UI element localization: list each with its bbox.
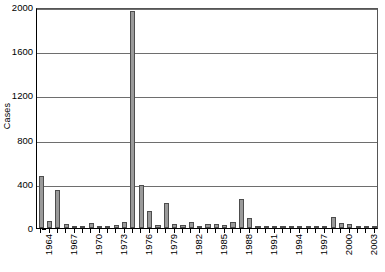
x-tick-label: 1964 xyxy=(44,234,54,255)
x-tick-mark xyxy=(65,229,66,233)
bar xyxy=(230,222,235,228)
bar xyxy=(114,225,119,228)
bar xyxy=(214,224,219,228)
bar xyxy=(331,217,336,228)
x-tick-mark xyxy=(115,229,116,233)
x-tick-mark xyxy=(224,229,225,233)
x-tick-label: 2000 xyxy=(344,234,354,255)
bar xyxy=(130,11,135,228)
x-tick-mark xyxy=(282,229,283,233)
x-tick-label: 1970 xyxy=(94,234,104,255)
bar xyxy=(222,225,227,228)
bar xyxy=(172,224,177,228)
x-tick-mark xyxy=(49,229,50,233)
bar-chart-figure: Cases 0400800120016002000 19641967197019… xyxy=(0,0,385,272)
x-tick-mark xyxy=(365,229,366,233)
bar xyxy=(239,199,244,228)
x-tick-mark xyxy=(107,229,108,233)
bar xyxy=(80,226,85,228)
bar xyxy=(372,226,377,228)
x-tick-mark xyxy=(324,229,325,233)
x-tick-mark xyxy=(74,229,75,233)
x-tick-mark xyxy=(82,229,83,233)
bar xyxy=(205,224,210,228)
x-tick-mark xyxy=(165,229,166,233)
bar xyxy=(289,226,294,228)
x-tick-label: 1988 xyxy=(244,234,254,255)
x-tick-mark xyxy=(40,229,41,233)
y-axis-tick-labels: 0400800120016002000 xyxy=(10,0,36,232)
x-tick-mark xyxy=(215,229,216,233)
x-tick-mark xyxy=(174,229,175,233)
bar xyxy=(47,221,52,228)
x-tick-mark xyxy=(374,229,375,233)
bar xyxy=(297,226,302,228)
bar xyxy=(247,218,252,228)
bar xyxy=(306,226,311,228)
bar xyxy=(280,226,285,228)
x-tick-mark xyxy=(249,229,250,233)
x-tick-label: 1967 xyxy=(69,234,79,255)
x-tick-label: 1997 xyxy=(319,234,329,255)
x-tick-mark xyxy=(349,229,350,233)
x-tick-mark xyxy=(240,229,241,233)
y-tick-label: 800 xyxy=(17,136,33,146)
x-tick-mark xyxy=(340,229,341,233)
x-tick-mark xyxy=(274,229,275,233)
x-tick-mark xyxy=(307,229,308,233)
bar xyxy=(264,226,269,228)
bar xyxy=(89,223,94,228)
bar xyxy=(155,225,160,228)
x-tick-mark xyxy=(332,229,333,233)
x-tick-mark xyxy=(182,229,183,233)
x-axis-tick-labels: 1964196719701973197619791982198519881991… xyxy=(36,234,378,272)
plot-area xyxy=(36,8,378,229)
x-tick-mark xyxy=(257,229,258,233)
bar xyxy=(180,225,185,228)
x-tick-mark xyxy=(357,229,358,233)
bar xyxy=(72,226,77,228)
x-tick-label: 1985 xyxy=(219,234,229,255)
x-tick-label: 2003 xyxy=(369,234,379,255)
x-tick-mark xyxy=(199,229,200,233)
x-tick-mark xyxy=(265,229,266,233)
y-tick-label: 0 xyxy=(28,224,33,234)
bar xyxy=(97,226,102,228)
x-tick-label: 1982 xyxy=(194,234,204,255)
x-tick-mark xyxy=(132,229,133,233)
bar xyxy=(314,226,319,228)
x-tick-mark xyxy=(232,229,233,233)
bar xyxy=(147,211,152,228)
x-tick-label: 1994 xyxy=(294,234,304,255)
x-tick-mark xyxy=(149,229,150,233)
bar xyxy=(339,223,344,228)
x-tick-mark xyxy=(190,229,191,233)
x-tick-label: 1991 xyxy=(269,234,279,255)
x-tick-label: 1973 xyxy=(119,234,129,255)
y-tick-label: 2000 xyxy=(12,3,33,13)
bar xyxy=(122,222,127,228)
x-tick-mark xyxy=(299,229,300,233)
y-tick-label: 400 xyxy=(17,180,33,190)
x-tick-mark xyxy=(207,229,208,233)
x-tick-label: 1979 xyxy=(169,234,179,255)
bar xyxy=(197,226,202,228)
bars-layer xyxy=(37,9,377,228)
bar xyxy=(164,203,169,228)
x-tick-mark xyxy=(315,229,316,233)
x-tick-label: 1976 xyxy=(144,234,154,255)
y-tick-label: 1200 xyxy=(12,92,33,102)
bar xyxy=(255,226,260,228)
bar xyxy=(105,226,110,228)
bar xyxy=(55,190,60,228)
y-tick-label: 1600 xyxy=(12,47,33,57)
x-tick-mark xyxy=(99,229,100,233)
bar xyxy=(364,226,369,228)
x-tick-mark xyxy=(124,229,125,233)
bar xyxy=(39,176,44,228)
bar xyxy=(64,224,69,228)
bar xyxy=(322,226,327,228)
x-tick-mark xyxy=(290,229,291,233)
x-tick-mark xyxy=(140,229,141,233)
x-tick-mark xyxy=(157,229,158,233)
